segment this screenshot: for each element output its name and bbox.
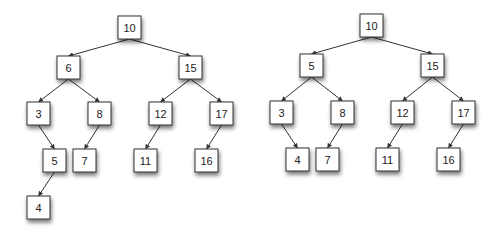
edge-arrow — [388, 124, 403, 148]
edge-arrow — [312, 37, 372, 54]
tree-node: 6 — [57, 56, 80, 79]
node-label: 5 — [308, 60, 314, 72]
node-label: 12 — [396, 107, 408, 119]
tree-node: 11 — [376, 148, 399, 171]
trees-layer: 10615381217571116410515381217471116 — [27, 14, 475, 219]
tree-node: 15 — [421, 54, 444, 77]
tree-node: 8 — [331, 101, 354, 124]
edge-arrow — [328, 124, 343, 148]
tree-node: 15 — [179, 56, 202, 79]
tree-node: 3 — [27, 102, 50, 125]
node-label: 15 — [184, 62, 196, 74]
edge-arrow — [130, 39, 191, 56]
tree-node: 10 — [118, 16, 141, 39]
edge-arrow — [372, 37, 433, 54]
tree-node: 11 — [134, 149, 157, 172]
edge-arrow — [39, 172, 55, 196]
edge-arrow — [39, 125, 55, 149]
node-label: 8 — [339, 107, 345, 119]
edge-arrow — [85, 125, 100, 149]
edge-arrow — [282, 77, 312, 101]
node-label: 10 — [365, 20, 377, 32]
node-label: 3 — [278, 107, 284, 119]
tree-node: 12 — [391, 101, 414, 124]
node-label: 6 — [65, 62, 71, 74]
tree-right: 10515381217471116 — [270, 14, 475, 171]
tree-node: 7 — [73, 149, 96, 172]
tree-node: 4 — [27, 196, 50, 219]
tree-node: 10 — [360, 14, 383, 37]
tree-node: 17 — [210, 102, 233, 125]
tree-node: 12 — [149, 102, 172, 125]
node-label: 12 — [154, 108, 166, 120]
tree-node: 16 — [195, 149, 218, 172]
node-label: 11 — [382, 154, 393, 166]
edge-arrow — [403, 77, 433, 101]
node-label: 7 — [81, 155, 87, 167]
node-label: 3 — [35, 108, 41, 120]
node-label: 17 — [457, 107, 469, 119]
bst-diagram-canvas: 10615381217571116410515381217471116 — [0, 0, 501, 237]
edge-arrow — [39, 79, 69, 102]
edge-arrow — [312, 77, 343, 101]
tree-node: 5 — [43, 149, 66, 172]
node-label: 4 — [294, 154, 300, 166]
node-label: 10 — [123, 22, 135, 34]
tree-node: 8 — [88, 102, 111, 125]
edge-arrow — [449, 124, 464, 148]
node-label: 7 — [324, 154, 330, 166]
edge-arrow — [69, 79, 100, 102]
edge-arrow — [146, 125, 161, 149]
node-label: 16 — [442, 154, 454, 166]
node-label: 15 — [426, 60, 438, 72]
node-label: 4 — [35, 202, 41, 214]
tree-node: 16 — [437, 148, 460, 171]
edge-arrow — [69, 39, 130, 56]
tree-node: 7 — [316, 148, 339, 171]
tree-node: 3 — [270, 101, 293, 124]
edge-arrow — [161, 79, 191, 102]
tree-node: 4 — [286, 148, 309, 171]
node-label: 5 — [51, 155, 57, 167]
node-label: 11 — [140, 155, 151, 167]
edge-arrow — [191, 79, 222, 102]
tree-node: 17 — [452, 101, 475, 124]
node-label: 16 — [200, 155, 212, 167]
edge-arrow — [433, 77, 464, 101]
tree-left: 106153812175711164 — [27, 16, 233, 219]
node-label: 17 — [215, 108, 227, 120]
tree-node: 5 — [300, 54, 323, 77]
edge-arrow — [207, 125, 222, 149]
edge-arrow — [282, 124, 298, 148]
node-label: 8 — [96, 108, 102, 120]
